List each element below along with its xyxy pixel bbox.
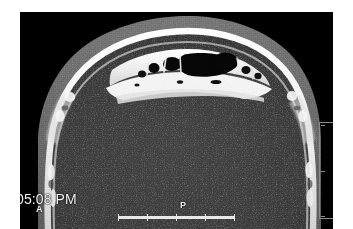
vertical-scale-bar — [319, 122, 333, 219]
scale-tick — [176, 214, 177, 221]
orientation-marker-posterior: P — [180, 200, 186, 210]
vertical-scale-tick — [321, 125, 325, 126]
page-background: 05:08 PM A P — [0, 0, 353, 229]
acquisition-timestamp: 05:08 PM — [20, 191, 77, 207]
horizontal-scale-bar — [118, 216, 234, 219]
scale-tick — [234, 214, 235, 221]
scale-tick — [118, 214, 119, 221]
vertical-scale-tick — [321, 171, 325, 172]
scale-tick — [147, 214, 148, 221]
ct-image-viewport[interactable]: 05:08 PM A P — [20, 12, 333, 229]
vertical-scale-tick — [321, 216, 325, 217]
orientation-marker-anterior: A — [36, 204, 43, 214]
scale-tick — [205, 214, 206, 221]
